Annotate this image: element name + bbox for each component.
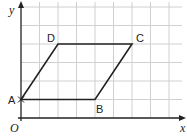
vertex-label-d: D (47, 32, 55, 44)
y-axis-label: y (8, 3, 15, 17)
origin-label: O (10, 121, 19, 135)
vertex-label-b: B (96, 103, 103, 115)
grid-lines (21, 2, 187, 118)
vertex-label-a: A (8, 94, 16, 106)
x-axis-label: x (179, 121, 186, 135)
parallelogram-diagram: ABCD x y O (0, 0, 187, 137)
y-axis-arrow-icon (18, 1, 24, 8)
vertex-label-c: C (136, 32, 144, 44)
coordinate-grid: ABCD x y O (0, 0, 187, 137)
parallelogram-shape (18, 44, 132, 103)
